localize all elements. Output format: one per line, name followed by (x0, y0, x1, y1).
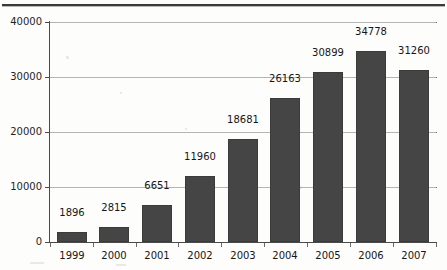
bar-2007[interactable] (399, 70, 429, 242)
y-axis-label-10000: 10000 (0, 182, 42, 192)
bar-value-2005: 30899 (298, 48, 358, 58)
gridline-40000 (50, 22, 436, 23)
x-tick-3 (178, 243, 179, 247)
x-tick-1 (93, 243, 94, 247)
bar-2004[interactable] (270, 98, 300, 242)
x-axis-line (49, 242, 437, 243)
bar-1999[interactable] (57, 232, 87, 242)
y-axis-label-20000: 20000 (0, 127, 42, 137)
x-tick-2 (136, 243, 137, 247)
bar-value-2002: 11960 (170, 152, 230, 162)
bar-value-2001: 6651 (127, 181, 187, 191)
x-tick-9 (436, 243, 437, 247)
y-axis-label-30000: 30000 (0, 72, 42, 82)
x-tick-4 (221, 243, 222, 247)
x-axis-label-2007: 2007 (384, 250, 444, 261)
bar-2003[interactable] (228, 139, 258, 242)
bar-value-2003: 18681 (213, 115, 273, 125)
bar-2000[interactable] (99, 227, 129, 242)
bar-value-2000: 2815 (84, 203, 144, 213)
bar-2006[interactable] (356, 51, 386, 242)
x-tick-7 (350, 243, 351, 247)
page-top-rule-shadow (2, 6, 445, 7)
scan-speckle (30, 262, 44, 264)
scan-speckle (116, 264, 126, 266)
bar-value-2007: 31260 (384, 46, 444, 56)
bar-chart-figure: 40000 30000 20000 10000 0 1896 2815 6651… (0, 0, 447, 270)
bar-value-2004: 26163 (255, 74, 315, 84)
y-axis-label-40000: 40000 (0, 17, 42, 27)
x-tick-5 (264, 243, 265, 247)
bar-value-2006: 34778 (341, 27, 401, 37)
x-tick-6 (307, 243, 308, 247)
y-axis-label-0: 0 (0, 237, 42, 247)
x-tick-0 (50, 243, 51, 247)
bar-2005[interactable] (313, 72, 343, 242)
bar-2001[interactable] (142, 205, 172, 242)
bar-2002[interactable] (185, 176, 215, 242)
x-tick-8 (393, 243, 394, 247)
